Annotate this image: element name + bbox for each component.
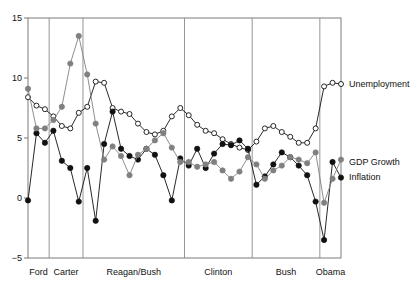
data-point	[203, 162, 208, 167]
data-point	[254, 182, 259, 187]
data-point	[110, 109, 115, 114]
data-point	[119, 109, 124, 114]
y-axis-tick-label: −5	[2, 254, 22, 263]
data-point	[85, 72, 90, 77]
data-point	[68, 165, 73, 170]
data-point	[330, 176, 335, 181]
series-annotation-inflation: Inflation	[349, 173, 381, 182]
data-point	[279, 130, 284, 135]
data-point	[288, 155, 293, 160]
data-point	[127, 173, 132, 178]
data-point	[169, 145, 174, 150]
data-point	[76, 110, 81, 115]
data-point	[127, 112, 132, 117]
data-point	[271, 124, 276, 129]
data-point	[203, 128, 208, 133]
data-point	[313, 150, 318, 155]
data-point	[161, 131, 166, 136]
data-point	[338, 175, 343, 180]
data-point	[228, 143, 233, 148]
data-point	[102, 80, 107, 85]
data-point	[169, 198, 174, 203]
data-point	[186, 113, 191, 118]
data-point	[59, 104, 64, 109]
data-point	[169, 114, 174, 119]
data-point	[76, 33, 81, 38]
series-annotation-gdp-growth: GDP Growth	[349, 158, 400, 167]
data-point	[127, 153, 132, 158]
data-point	[42, 126, 47, 131]
data-point	[110, 144, 115, 149]
data-point	[330, 159, 335, 164]
data-point	[194, 146, 199, 151]
data-point	[34, 126, 39, 131]
data-point	[195, 122, 200, 127]
data-point	[101, 141, 106, 146]
data-point	[135, 121, 140, 126]
data-point	[322, 84, 327, 89]
data-point	[338, 157, 343, 162]
data-point	[93, 218, 98, 223]
data-point	[68, 61, 73, 66]
data-point	[237, 138, 242, 143]
data-point	[288, 134, 293, 139]
data-point	[262, 176, 267, 181]
data-point	[279, 163, 284, 168]
data-point	[135, 152, 140, 157]
data-point	[93, 121, 98, 126]
data-point	[321, 237, 326, 242]
data-point	[85, 165, 90, 170]
data-point	[68, 126, 73, 131]
data-point	[220, 137, 225, 142]
data-point	[271, 168, 276, 173]
x-axis-era-label-obama: Obama	[270, 268, 390, 277]
data-point	[186, 159, 191, 164]
data-point	[339, 82, 344, 87]
data-point	[212, 131, 217, 136]
data-point	[25, 198, 30, 203]
data-point	[254, 162, 259, 167]
data-point	[245, 155, 250, 160]
data-point	[237, 145, 242, 150]
data-point	[220, 168, 225, 173]
data-point	[59, 124, 64, 129]
y-axis-tick-label: 15	[2, 14, 22, 23]
data-point	[85, 104, 90, 109]
data-point	[228, 176, 233, 181]
y-axis-tick-label: 10	[2, 74, 22, 83]
data-point	[296, 140, 301, 145]
y-axis-tick-label: 5	[2, 134, 22, 143]
y-axis-tick-label: 0	[2, 194, 22, 203]
series-annotation-unemployment: Unemployment	[349, 80, 410, 89]
data-point	[313, 199, 318, 204]
data-point	[296, 157, 301, 162]
data-point	[321, 200, 326, 205]
data-point	[152, 152, 157, 157]
data-point	[118, 153, 123, 158]
data-point	[161, 173, 166, 178]
data-point	[42, 140, 47, 145]
data-point	[152, 132, 157, 137]
data-point	[59, 158, 64, 163]
data-point	[194, 164, 199, 169]
data-point	[93, 79, 98, 84]
data-point	[304, 161, 309, 166]
data-point	[262, 126, 267, 131]
data-point	[51, 117, 56, 122]
data-point	[211, 151, 216, 156]
data-point	[152, 138, 157, 143]
data-point	[42, 107, 47, 112]
data-point	[51, 128, 56, 133]
data-point	[211, 159, 216, 164]
data-point	[296, 163, 301, 168]
data-point	[144, 146, 149, 151]
data-point	[34, 103, 39, 108]
data-point	[144, 130, 149, 135]
data-point	[313, 126, 318, 131]
data-point	[178, 106, 183, 111]
data-point	[330, 80, 335, 85]
data-point	[178, 159, 183, 164]
data-point	[305, 140, 310, 145]
